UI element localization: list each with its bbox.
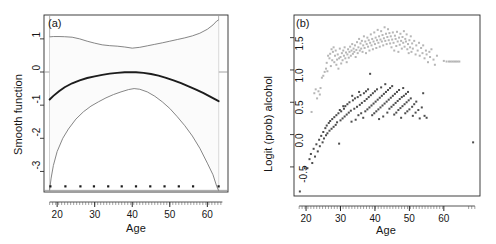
scatter-point (384, 26, 386, 28)
scatter-point (315, 143, 317, 145)
scatter-point (429, 56, 431, 58)
scatter-point (360, 48, 362, 50)
scatter-point (361, 40, 363, 42)
scatter-point (377, 29, 379, 31)
panel-a-confidence-fill (50, 20, 219, 191)
scatter-point (343, 55, 345, 57)
scatter-point (379, 106, 381, 108)
scatter-point (404, 112, 406, 114)
scatter-point (364, 110, 366, 112)
scatter-point (388, 39, 390, 41)
panel-a-x-tick-label: 60 (192, 209, 222, 220)
scatter-point (353, 48, 355, 50)
panel-b-y-tick-label: 0.0 (294, 133, 305, 147)
scatter-point (398, 89, 400, 91)
scatter-point (458, 61, 460, 63)
scatter-point (368, 106, 370, 108)
scatter-point (412, 48, 414, 50)
scatter-point (411, 106, 413, 108)
scatter-point (375, 101, 377, 103)
scatter-point (384, 103, 386, 105)
scatter-point (415, 101, 417, 103)
scatter-point (422, 92, 424, 94)
scatter-point (383, 37, 385, 39)
scatter-point (357, 52, 359, 54)
scatter-point (317, 150, 319, 152)
scatter-point (322, 141, 324, 143)
panel-b-y-tick-label: -0.5 (298, 165, 309, 182)
scatter-point (398, 37, 400, 39)
scatter-point (448, 61, 450, 63)
scatter-point (386, 101, 388, 103)
scatter-point (371, 44, 373, 46)
scatter-point (396, 31, 398, 33)
scatter-point (357, 114, 359, 116)
scatter-point (405, 93, 407, 95)
scatter-point (314, 156, 316, 158)
scatter-point (446, 61, 448, 63)
scatter-point (406, 110, 408, 112)
scatter-point (313, 148, 315, 150)
scatter-point (393, 50, 395, 52)
panel-a-rug-point (93, 185, 95, 187)
scatter-point (408, 99, 410, 101)
scatter-point (374, 90, 376, 92)
scatter-point (379, 46, 381, 48)
scatter-point (319, 145, 321, 147)
scatter-point (419, 117, 421, 119)
scatter-point (390, 35, 392, 37)
scatter-point (402, 105, 404, 107)
panel-b-x-tick-label: 20 (291, 213, 321, 224)
scatter-point (333, 61, 335, 63)
scatter-point (346, 61, 348, 63)
scatter-point (381, 41, 383, 43)
scatter-point (299, 190, 301, 192)
scatter-point (397, 100, 399, 102)
scatter-point (324, 71, 326, 73)
scatter-point (322, 131, 324, 133)
scatter-point (364, 100, 366, 102)
scatter-point (333, 46, 335, 48)
panel-a-tag: (a) (48, 17, 61, 29)
scatter-point (424, 115, 426, 117)
scatter-point (359, 94, 361, 96)
scatter-point (319, 94, 321, 96)
scatter-point (356, 41, 358, 43)
scatter-point (375, 47, 377, 49)
scatter-point (348, 51, 350, 53)
scatter-point (340, 119, 342, 121)
scatter-point (375, 110, 377, 112)
scatter-point (364, 41, 366, 43)
scatter-point (330, 65, 332, 67)
scatter-point (409, 46, 411, 48)
scatter-point (363, 35, 365, 37)
scatter-point (374, 43, 376, 45)
scatter-point (385, 33, 387, 35)
scatter-point (346, 53, 348, 55)
scatter-point (408, 108, 410, 110)
scatter-point (340, 56, 342, 58)
scatter-point (333, 126, 335, 128)
scatter-point (395, 102, 397, 104)
scatter-point (329, 120, 331, 122)
scatter-point (344, 57, 346, 59)
scatter-point (360, 112, 362, 114)
scatter-point (403, 30, 405, 32)
scatter-point (317, 90, 319, 92)
panel-a-rug-point (79, 185, 81, 187)
scatter-point (359, 104, 361, 106)
panel-b-series-1 (299, 73, 474, 193)
scatter-point (401, 96, 403, 98)
scatter-point (337, 112, 339, 114)
panel-a-rug-point (178, 185, 180, 187)
scatter-point (379, 39, 381, 41)
scatter-point (389, 87, 391, 89)
scatter-point (366, 43, 368, 45)
panel-a-rug-point (107, 185, 109, 187)
scatter-point (351, 50, 353, 52)
scatter-point (396, 91, 398, 93)
scatter-point (395, 45, 397, 47)
scatter-point (368, 39, 370, 41)
scatter-point (344, 115, 346, 117)
scatter-point (397, 41, 399, 43)
